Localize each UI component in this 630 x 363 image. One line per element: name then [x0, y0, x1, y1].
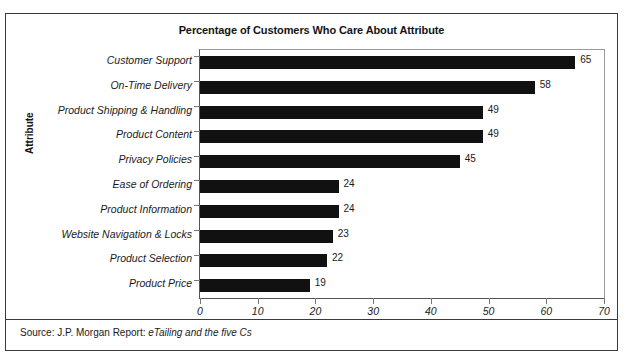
- bar-value-label: 22: [332, 252, 343, 263]
- x-axis-label: 10: [252, 305, 264, 317]
- y-axis-label: Product Information: [100, 203, 192, 215]
- bar-row: Product Price19: [200, 273, 604, 298]
- bar-value-label: 19: [315, 277, 326, 288]
- bar-value-label: 45: [465, 153, 476, 164]
- x-axis-label: 20: [310, 305, 322, 317]
- source-note: Source: J.P. Morgan Report: eTailing and…: [20, 327, 252, 338]
- x-axis-label: 50: [483, 305, 495, 317]
- page-title: Percentage of Customers Who Care About A…: [6, 24, 617, 36]
- bar: [200, 230, 333, 243]
- y-axis-label: Website Navigation & Locks: [61, 228, 192, 240]
- bar-row: Website Navigation & Locks23: [200, 224, 604, 249]
- x-axis-label: 30: [367, 305, 379, 317]
- bar: [200, 180, 339, 193]
- x-axis-tick: [431, 298, 432, 304]
- y-axis-title: Attribute: [24, 112, 35, 154]
- y-axis-label: Privacy Policies: [118, 153, 192, 165]
- bar-row: Product Information24: [200, 199, 604, 224]
- bar: [200, 205, 339, 218]
- x-axis-tick: [604, 298, 605, 304]
- bar: [200, 254, 327, 267]
- bar-row: Product Content49: [200, 124, 604, 149]
- bar-row: Privacy Policies45: [200, 149, 604, 174]
- bar-value-label: 49: [488, 128, 499, 139]
- x-axis-tick: [373, 298, 374, 304]
- y-axis-label: Product Price: [129, 277, 192, 289]
- bar-value-label: 24: [344, 203, 355, 214]
- x-axis-tick: [489, 298, 490, 304]
- x-axis-tick: [258, 298, 259, 304]
- footer-divider: [6, 319, 617, 320]
- bar-row: Product Shipping & Handling49: [200, 100, 604, 125]
- bar-row: Product Selection22: [200, 248, 604, 273]
- chart-card: Percentage of Customers Who Care About A…: [5, 13, 618, 351]
- y-axis-label: Ease of Ordering: [113, 178, 192, 190]
- bar-value-label: 49: [488, 104, 499, 115]
- y-axis-label: Product Shipping & Handling: [58, 104, 192, 116]
- bar-row: Ease of Ordering24: [200, 174, 604, 199]
- bar: [200, 106, 483, 119]
- x-axis-label: 40: [425, 305, 437, 317]
- x-axis-tick: [315, 298, 316, 304]
- plot-area: Customer Support65On-Time Delivery58Prod…: [199, 49, 605, 299]
- bar: [200, 130, 483, 143]
- bar-value-label: 65: [580, 54, 591, 65]
- y-axis-label: On-Time Delivery: [110, 79, 192, 91]
- bar-row: Customer Support65: [200, 50, 604, 75]
- x-axis-tick: [200, 298, 201, 304]
- bar-value-label: 23: [338, 228, 349, 239]
- bar: [200, 155, 460, 168]
- bar: [200, 81, 535, 94]
- bar: [200, 279, 310, 292]
- y-axis-label: Product Selection: [110, 252, 192, 264]
- bar-value-label: 24: [344, 178, 355, 189]
- source-prefix: Source: J.P. Morgan Report:: [20, 327, 145, 338]
- bar-row: On-Time Delivery58: [200, 75, 604, 100]
- x-axis-tick: [546, 298, 547, 304]
- x-axis-label: 70: [598, 305, 610, 317]
- bar: [200, 56, 575, 69]
- y-axis-label: Customer Support: [107, 54, 192, 66]
- y-axis-label: Product Content: [116, 128, 192, 140]
- bar-value-label: 58: [540, 79, 551, 90]
- x-axis-label: 60: [540, 305, 552, 317]
- x-axis-label: 0: [197, 305, 203, 317]
- source-title: eTailing and the five Cs: [148, 327, 252, 338]
